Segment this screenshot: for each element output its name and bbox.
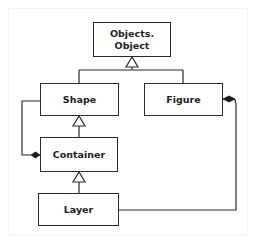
class-label-line1: Objects. [110, 28, 154, 40]
class-layer: Layer [38, 193, 119, 226]
composition-diamond-icon [223, 96, 235, 102]
class-shape: Shape [40, 83, 119, 116]
class-container: Container [40, 137, 118, 172]
class-label-line2: Object [110, 40, 154, 52]
composition-diamond-icon [31, 152, 40, 158]
class-figure: Figure [144, 83, 223, 116]
generalization-arrow-icon [73, 116, 85, 126]
class-label: Container [53, 149, 105, 161]
class-objects-object: Objects. Object [93, 22, 171, 57]
class-label: Figure [166, 94, 200, 106]
generalization-arrow-icon [73, 172, 85, 182]
generalization-arrow-icon [126, 57, 138, 67]
class-label: Shape [63, 94, 96, 106]
class-label: Layer [64, 204, 94, 216]
